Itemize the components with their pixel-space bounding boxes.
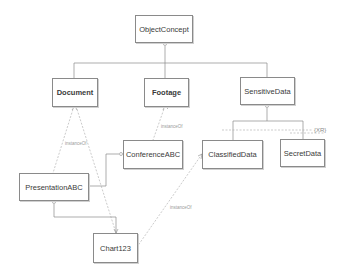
node-document[interactable]: Document — [52, 78, 98, 107]
edge-label-instance-of-classified: instanceOf — [170, 205, 192, 210]
xr-constraint-label: {XR} — [314, 127, 326, 133]
node-object-concept[interactable]: ObjectConcept — [135, 15, 193, 43]
node-label: ObjectConcept — [139, 25, 189, 34]
node-label: PresentationABC — [25, 183, 83, 192]
node-conference-abc[interactable]: ConferenceABC — [123, 140, 183, 169]
node-label: ClassifiedData — [208, 150, 256, 159]
node-label: Footage — [152, 88, 181, 97]
node-label: SecretData — [284, 149, 322, 158]
edge-label-instance-of-document: instanceOf — [65, 141, 87, 146]
node-label: ConferenceABC — [126, 150, 180, 159]
edge-label-instance-of-footage: instanceOf — [161, 124, 183, 129]
instance-of-line — [53, 106, 74, 173]
node-chart123[interactable]: Chart123 — [93, 233, 138, 263]
instance-of-line — [153, 106, 165, 140]
node-footage[interactable]: Footage — [144, 78, 189, 107]
node-label: Document — [57, 88, 94, 97]
node-label: SensitiveData — [244, 87, 290, 96]
instance-of-line — [76, 106, 116, 233]
node-classified-data[interactable]: ClassifiedData — [202, 140, 263, 169]
node-presentation-abc[interactable]: PresentationABC — [19, 173, 89, 201]
node-label: Chart123 — [100, 244, 131, 253]
node-secret-data[interactable]: SecretData — [280, 139, 325, 167]
node-sensitive-data[interactable]: SensitiveData — [240, 77, 295, 105]
